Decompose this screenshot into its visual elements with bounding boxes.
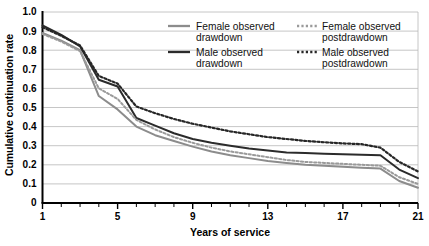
x-tick-label: 17: [337, 211, 349, 222]
y-tick-label: 0.6: [23, 83, 37, 94]
y-tick-label: 0.3: [23, 140, 37, 151]
legend-label: postdrawdown: [322, 58, 388, 69]
legend-label: Male observed: [322, 47, 389, 58]
x-axis-title: Years of service: [42, 226, 418, 238]
y-tick-label: 0.7: [23, 64, 37, 75]
legend-label: Male observed: [196, 47, 263, 58]
y-tick-label: 0.2: [23, 159, 37, 170]
x-tick-label: 5: [115, 211, 121, 222]
legend-label: Female observed: [196, 21, 275, 32]
y-tick-label: 0.9: [23, 26, 37, 37]
legend-label: Female observed: [322, 21, 401, 32]
x-tick-label: 13: [262, 211, 274, 222]
x-tick-label: 21: [412, 211, 424, 222]
y-tick-label: 1.0: [23, 6, 37, 17]
chart-container: Cumulative continuation rate 00.10.20.30…: [0, 0, 429, 246]
legend-label: drawdown: [196, 58, 242, 69]
x-tick-label: 9: [190, 211, 196, 222]
y-tick-label: 0: [31, 197, 37, 208]
y-tick-label: 0.8: [23, 45, 37, 56]
x-tick-label: 1: [40, 211, 46, 222]
y-tick-label: 0.5: [23, 102, 37, 113]
chart-plot-area: 00.10.20.30.40.50.60.70.80.91.0159131721…: [0, 0, 429, 246]
legend-label: drawdown: [196, 32, 242, 43]
legend-label: postdrawdown: [322, 32, 388, 43]
y-tick-label: 0.4: [23, 121, 37, 132]
y-tick-label: 0.1: [23, 178, 37, 189]
